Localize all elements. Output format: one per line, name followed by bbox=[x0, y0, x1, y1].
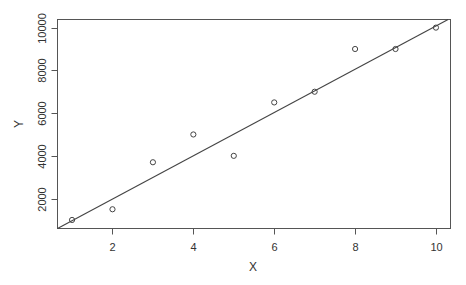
fit-line bbox=[58, 20, 449, 229]
y-tick-label: 6000 bbox=[36, 101, 48, 125]
data-point bbox=[110, 207, 115, 212]
y-tick-label: 10000 bbox=[36, 13, 48, 44]
x-tick-label: 4 bbox=[190, 241, 196, 253]
x-tick-label: 6 bbox=[271, 241, 277, 253]
x-axis-title: X bbox=[249, 260, 257, 274]
data-point bbox=[231, 153, 236, 158]
y-axis-title: Y bbox=[12, 120, 26, 128]
regression-line bbox=[58, 20, 449, 229]
x-tick-label: 10 bbox=[430, 241, 442, 253]
data-point bbox=[150, 160, 155, 165]
data-point bbox=[352, 46, 357, 51]
x-axis: 246810 bbox=[109, 229, 442, 253]
y-tick-label: 4000 bbox=[36, 144, 48, 168]
x-tick-label: 8 bbox=[352, 241, 358, 253]
y-tick-label: 2000 bbox=[36, 187, 48, 211]
scatter-plot: 246810 200040006000800010000 X Y bbox=[0, 0, 466, 285]
y-tick-label: 8000 bbox=[36, 58, 48, 82]
y-axis: 200040006000800010000 bbox=[36, 13, 58, 212]
data-point bbox=[191, 132, 196, 137]
x-tick-label: 2 bbox=[109, 241, 115, 253]
data-point bbox=[272, 100, 277, 105]
